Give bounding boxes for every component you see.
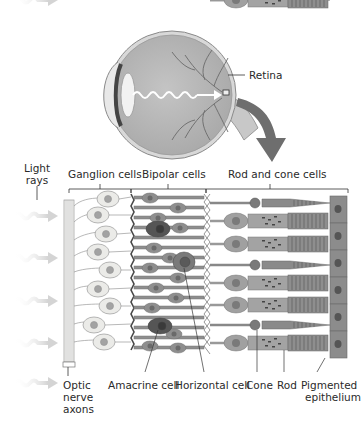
rod-label: Rod [277, 379, 297, 391]
pigmented-line2: epithelium [301, 391, 361, 403]
cone-cell [210, 260, 330, 270]
ganglion-cell-layer [74, 191, 131, 350]
light-rays-label: Light rays [22, 162, 52, 186]
rod-cell [210, 213, 328, 229]
light-rays-label-line2: rays [22, 174, 52, 186]
ganglion-cells-label: Ganglion cells [68, 168, 142, 180]
eyeball [104, 31, 258, 159]
retina-label: Retina [249, 69, 282, 81]
light-rays-label-line1: Light [22, 162, 52, 174]
pigmented-epithelium [330, 196, 347, 358]
diagram-graphics [0, 0, 364, 426]
pigmented-epithelium-label: Pigmented epithelium [301, 379, 361, 403]
inner-plexiform-layer [131, 194, 134, 350]
cone-cell [210, 320, 330, 330]
bipolar-cell-layer [134, 193, 204, 353]
optic-line2: nerve [63, 391, 94, 403]
retina-diagram: Retina Light rays Ganglion cells Bipolar… [0, 0, 364, 426]
rod-cell [210, 335, 328, 351]
rod-cell [210, 275, 328, 291]
cone-cell [210, 198, 330, 208]
optic-line3: axons [63, 403, 94, 415]
light-rays [14, 0, 58, 389]
cone-label: Cone [246, 379, 273, 391]
rod-cell [210, 297, 328, 313]
rod-cell [210, 236, 328, 252]
amacrine-cell-label: Amacrine cell [108, 379, 179, 391]
pigmented-line1: Pigmented [301, 379, 361, 391]
optic-nerve-axons [63, 200, 75, 376]
bipolar-cells-label: Bipolar cells [142, 168, 206, 180]
outer-plexiform-layer [204, 194, 210, 354]
horizontal-cell-label: Horizontal cell [175, 379, 250, 391]
rod-cone-cells-label: Rod and cone cells [228, 168, 327, 180]
optic-nerve-axons-label: Optic nerve axons [63, 379, 94, 415]
optic-line1: Optic [63, 379, 94, 391]
